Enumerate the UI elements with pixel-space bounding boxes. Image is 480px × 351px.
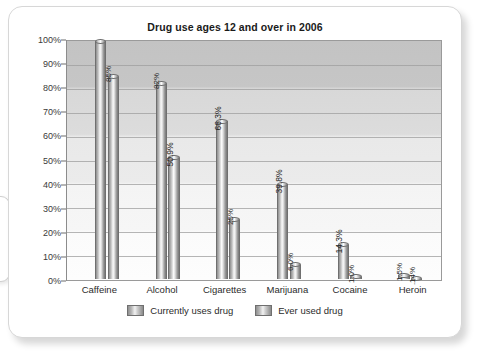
legend-swatch-icon bbox=[255, 305, 272, 316]
bar-value-label: 1.0% bbox=[348, 265, 356, 283]
bar-value-label: 50.9% bbox=[166, 143, 175, 167]
bar: 85% bbox=[108, 77, 119, 279]
bar: 1.0% bbox=[350, 277, 361, 279]
y-axis-tick-label: 60% bbox=[43, 131, 61, 141]
chart-card: Drug use ages 12 and over in 2006 85%82%… bbox=[8, 6, 462, 338]
bar: 82% bbox=[156, 84, 167, 279]
x-axis-label: Cigarettes bbox=[203, 284, 246, 295]
bar-cap bbox=[95, 39, 106, 44]
y-axis-tick-label: 50% bbox=[43, 156, 61, 166]
y-axis-tick-mark bbox=[61, 136, 66, 137]
y-axis-tick-label: 40% bbox=[43, 180, 61, 190]
bar: 50.9% bbox=[168, 158, 179, 279]
y-axis-tick-label: 90% bbox=[43, 59, 61, 69]
screenshot-root: Drug use ages 12 and over in 2006 85%82%… bbox=[0, 0, 480, 351]
y-axis-tick-mark bbox=[61, 184, 66, 185]
y-axis-tick-mark bbox=[61, 208, 66, 209]
x-axis-labels: CaffeineAlcoholCigarettesMarijuanaCocain… bbox=[66, 284, 442, 300]
y-axis-tick-label: 70% bbox=[43, 107, 61, 117]
bar-value-label: 25% bbox=[227, 208, 235, 224]
y-axis-tick-label: 100% bbox=[38, 35, 61, 45]
bar: 25% bbox=[229, 220, 240, 280]
y-axis-tick-mark bbox=[61, 281, 66, 282]
bar-value-label: 66.3% bbox=[214, 106, 223, 130]
x-axis-label: Alcohol bbox=[146, 284, 177, 295]
bar-value-label: .14% bbox=[409, 267, 417, 285]
bar-value-label: 6.0% bbox=[287, 253, 295, 271]
y-axis-tick-mark bbox=[61, 88, 66, 89]
bar-value-label: 14.3% bbox=[335, 230, 344, 254]
x-axis-label: Caffeine bbox=[82, 284, 117, 295]
plot-area: 85%82%50.9%66.3%25%39.8%6.0%14.3%1.0%1.5… bbox=[66, 40, 442, 281]
y-axis-tick-label: 80% bbox=[43, 83, 61, 93]
legend-item[interactable]: Currently uses drug bbox=[127, 305, 233, 316]
legend-swatch-icon bbox=[127, 305, 144, 316]
x-axis-label: Marijuana bbox=[266, 284, 308, 295]
y-axis-tick-mark bbox=[61, 64, 66, 65]
y-axis-tick-mark bbox=[61, 112, 66, 113]
plot-wrapper: 85%82%50.9%66.3%25%39.8%6.0%14.3%1.0%1.5… bbox=[58, 40, 442, 281]
legend-item[interactable]: Ever used drug bbox=[255, 305, 342, 316]
legend-label: Ever used drug bbox=[278, 305, 342, 316]
chart-title: Drug use ages 12 and over in 2006 bbox=[9, 21, 461, 33]
bar-value-label: 82% bbox=[153, 73, 161, 89]
x-axis-label: Cocaine bbox=[333, 284, 368, 295]
bar-value-label: 85% bbox=[105, 66, 113, 82]
chart-legend: Currently uses drugEver used drug bbox=[9, 305, 461, 316]
y-axis-tick-mark bbox=[61, 232, 66, 233]
y-axis-tick-label: 10% bbox=[43, 252, 61, 262]
bar: 6.0% bbox=[290, 265, 301, 279]
y-axis-line bbox=[66, 40, 67, 281]
y-axis-tick-label: 0% bbox=[48, 276, 61, 286]
bar-value-label: 1.5% bbox=[396, 263, 404, 281]
bar-series-container: 85%82%50.9%66.3%25%39.8%6.0%14.3%1.0%1.5… bbox=[76, 41, 440, 279]
bar-value-label: 39.8% bbox=[274, 169, 283, 193]
legend-label: Currently uses drug bbox=[150, 305, 233, 316]
y-axis-tick-mark bbox=[61, 256, 66, 257]
y-axis-tick-mark bbox=[61, 160, 66, 161]
y-axis-tick-label: 20% bbox=[43, 228, 61, 238]
y-axis-tick-mark bbox=[61, 40, 66, 41]
bar: 66.3% bbox=[216, 121, 227, 279]
y-axis-tick-label: 30% bbox=[43, 204, 61, 214]
x-axis-label: Heroin bbox=[399, 284, 427, 295]
